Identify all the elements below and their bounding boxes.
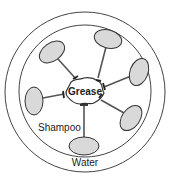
head-bottom-right	[116, 101, 147, 134]
head-top-left	[35, 37, 68, 68]
micelle-diagram: Grease Shampoo Water	[0, 0, 171, 180]
grease-label: Grease	[68, 86, 102, 97]
water-label: Water	[72, 157, 99, 168]
head-bottom	[69, 137, 99, 155]
head-right	[126, 56, 152, 88]
shampoo-label: Shampoo	[38, 122, 81, 133]
head-top-right	[92, 27, 124, 52]
head-left	[25, 87, 43, 115]
